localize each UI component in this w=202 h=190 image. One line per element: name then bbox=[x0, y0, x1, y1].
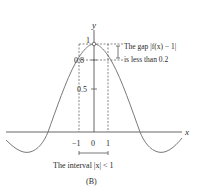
y-tick-1: 1 bbox=[86, 36, 90, 45]
y-tick-0-8: 0.8 bbox=[74, 56, 84, 65]
interval-bracket-icon bbox=[79, 151, 108, 155]
interval-annotation: The interval |x| < 1 bbox=[53, 161, 114, 170]
gap-bracket-icon bbox=[116, 46, 120, 58]
gap-annotation-line2: is less than 0.2 bbox=[124, 55, 168, 64]
x-tick-0: 0 bbox=[91, 139, 95, 148]
hole-marker bbox=[92, 42, 96, 46]
y-tick-0-5: 0.5 bbox=[77, 85, 87, 94]
x-axis-label: x bbox=[184, 127, 189, 137]
x-tick-1: 1 bbox=[106, 139, 110, 148]
figure: y x 1 0.8 0.5 −1 0 1 The gap |f(x) − 1| … bbox=[0, 0, 202, 190]
panel-label: (B) bbox=[86, 177, 97, 186]
x-tick-neg1: −1 bbox=[72, 139, 81, 148]
gap-annotation-line1: The gap |f(x) − 1| bbox=[124, 42, 176, 51]
y-axis-label: y bbox=[91, 20, 96, 30]
